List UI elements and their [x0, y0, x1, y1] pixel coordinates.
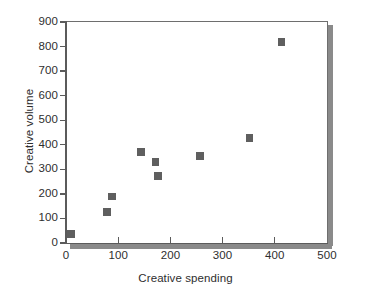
axis-shadow-right: [328, 25, 333, 246]
x-tick-label: 300: [203, 249, 243, 261]
plot-frame-right: [327, 21, 328, 244]
data-point-marker: [246, 134, 254, 142]
x-tick-mark: [274, 237, 275, 243]
x-tick-mark: [170, 237, 171, 243]
data-point-marker: [103, 208, 111, 216]
x-axis-title: Creative spending: [0, 272, 371, 284]
x-tick-mark: [222, 237, 223, 243]
y-tick-label: 800: [14, 40, 58, 54]
y-tick-mark: [60, 193, 66, 194]
data-point-marker: [67, 230, 75, 238]
y-tick-mark: [60, 144, 66, 145]
data-point-marker: [108, 193, 116, 201]
y-tick-mark: [60, 169, 66, 170]
plot-frame-top: [65, 21, 328, 22]
y-tick-mark: [60, 242, 66, 243]
y-axis-title: Creative volume: [23, 41, 35, 221]
y-tick-label-text: 0: [20, 236, 58, 248]
scatter-chart: 0100200300400500600700800900 01002003004…: [0, 0, 371, 298]
data-point-marker: [196, 152, 204, 160]
x-tick-mark: [118, 237, 119, 243]
x-tick-label: 0: [46, 249, 86, 261]
x-tick-label: 100: [98, 249, 138, 261]
y-tick-label: 700: [14, 64, 58, 78]
y-tick-mark: [60, 95, 66, 96]
y-tick-mark: [60, 46, 66, 47]
y-tick-label: 600: [14, 89, 58, 103]
y-tick-mark: [60, 70, 66, 71]
y-tick-label: 0: [14, 236, 58, 250]
data-point-marker: [152, 158, 160, 166]
y-tick-label: 500: [14, 113, 58, 127]
y-tick-mark: [60, 120, 66, 121]
x-axis-line: [65, 243, 328, 245]
data-point-marker: [278, 38, 286, 46]
y-tick-mark: [60, 21, 66, 22]
y-tick-label: 900: [14, 15, 58, 29]
x-tick-label: 400: [255, 249, 295, 261]
y-tick-label: 400: [14, 138, 58, 152]
y-tick-label-text: 900: [20, 15, 58, 27]
x-tick-label: 500: [307, 249, 347, 261]
y-tick-label: 300: [14, 162, 58, 176]
y-tick-label: 200: [14, 187, 58, 201]
y-axis-line: [65, 21, 67, 244]
y-tick-mark: [60, 218, 66, 219]
x-tick-label: 200: [150, 249, 190, 261]
data-point-marker: [154, 172, 162, 180]
y-tick-label: 100: [14, 211, 58, 225]
data-point-marker: [137, 148, 145, 156]
